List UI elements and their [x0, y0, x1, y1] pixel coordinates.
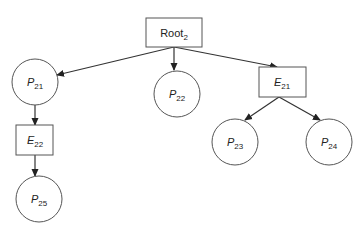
node-p25: P25	[16, 176, 62, 222]
node-p23: P23	[212, 119, 258, 165]
node-p21-sub: 21	[34, 82, 43, 91]
tree-diagram: Root2 P21 P22 E21 E22 P23	[0, 0, 364, 234]
node-root2-sub: 2	[183, 33, 188, 42]
node-e21-sub: 21	[281, 82, 290, 91]
node-e22-sub: 22	[34, 140, 43, 149]
edge-root2-e21	[174, 47, 277, 67]
node-p25-sub: 25	[38, 199, 47, 208]
node-p22: P22	[154, 71, 200, 117]
node-p23-sub: 23	[234, 142, 243, 151]
node-p24: P24	[306, 119, 352, 165]
node-p21: P21	[12, 59, 58, 105]
node-p24-sub: 24	[328, 142, 337, 151]
node-root2: Root2	[146, 18, 202, 47]
edge-e21-p24	[279, 97, 320, 120]
edge-root2-p21	[57, 47, 174, 75]
node-root2-base: Root	[160, 27, 183, 39]
edge-e21-p23	[245, 97, 279, 120]
node-e22: E22	[16, 125, 53, 155]
node-e21: E21	[259, 67, 306, 97]
node-p22-sub: 22	[176, 94, 185, 103]
